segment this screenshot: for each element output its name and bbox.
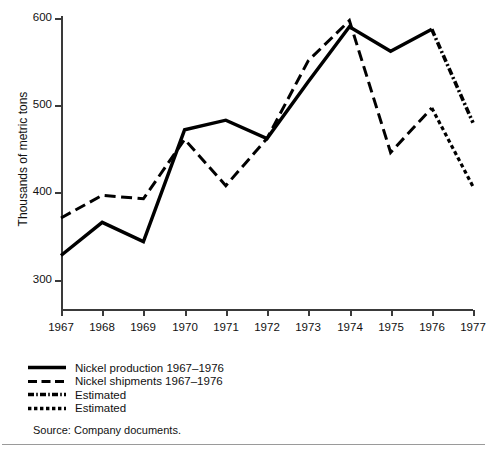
legend-label-shipments: Nickel shipments 1967–1976 [75, 375, 223, 387]
series-line-0 [61, 27, 432, 256]
chart-legend: Nickel production 1967–1976 Nickel shipm… [28, 361, 458, 415]
series-line-3 [432, 108, 473, 187]
legend-swatch-dotted [28, 402, 66, 415]
legend-label-estimated-production: Estimated [75, 389, 126, 401]
legend-swatch-dash-dot [28, 388, 66, 401]
legend-item-estimated-shipments: Estimated [28, 402, 458, 416]
legend-swatch-dashed [28, 375, 66, 388]
bottom-divider [2, 444, 485, 445]
legend-label-production: Nickel production 1967–1976 [75, 362, 224, 374]
legend-item-shipments: Nickel shipments 1967–1976 [28, 375, 458, 389]
source-note: Source: Company documents. [33, 424, 181, 436]
series-line-2 [432, 29, 473, 122]
chart-figure: Thousands of metric tons 600 500 400 300… [0, 0, 487, 454]
series-line-1 [61, 21, 432, 218]
legend-label-estimated-shipments: Estimated [75, 402, 126, 414]
legend-item-production: Nickel production 1967–1976 [28, 361, 458, 375]
legend-swatch-solid [28, 361, 66, 374]
legend-item-estimated-production: Estimated [28, 388, 458, 402]
